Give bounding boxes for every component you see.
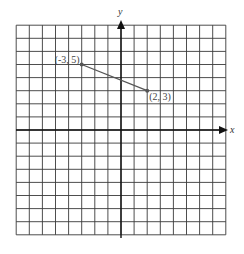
coordinate-plane: x y (-3, 5) (2, 3): [0, 0, 244, 254]
point-a-label: (-3, 5): [55, 54, 80, 66]
y-axis-arrow-icon: [117, 20, 125, 29]
y-axis-label: y: [117, 6, 123, 17]
point-b-label: (2, 3): [149, 91, 171, 103]
x-axis-label: x: [229, 124, 235, 135]
x-axis-arrow-icon: [219, 126, 228, 134]
point-a: [80, 63, 84, 67]
